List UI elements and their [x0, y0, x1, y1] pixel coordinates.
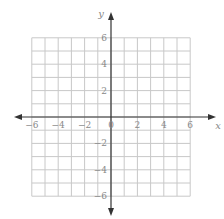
x-axis-label: x — [215, 120, 221, 131]
y-axis-up-arrow-icon — [108, 12, 114, 20]
y-tick-label: −6 — [94, 191, 108, 201]
x-tick-label: −6 — [25, 120, 39, 130]
y-tick-label: −4 — [94, 165, 108, 175]
y-axis-label: y — [97, 8, 104, 19]
x-tick-label: 4 — [161, 120, 167, 130]
x-tick-label: −2 — [78, 120, 91, 130]
coordinate-grid: −6−4−20246642−2−4−6xy — [0, 0, 224, 219]
y-axis-down-arrow-icon — [108, 208, 114, 216]
y-tick-label: 4 — [101, 59, 107, 69]
grid-svg: −6−4−20246642−2−4−6xy — [0, 0, 224, 219]
y-tick-label: 6 — [101, 33, 107, 43]
y-tick-label: 2 — [101, 86, 107, 96]
x-tick-label: 6 — [187, 120, 193, 130]
x-tick-label: −4 — [52, 120, 66, 130]
x-tick-label: 2 — [135, 120, 141, 130]
x-axis-left-arrow-icon — [14, 114, 22, 120]
x-tick-label: 0 — [108, 120, 114, 130]
y-tick-label: −2 — [94, 138, 107, 148]
